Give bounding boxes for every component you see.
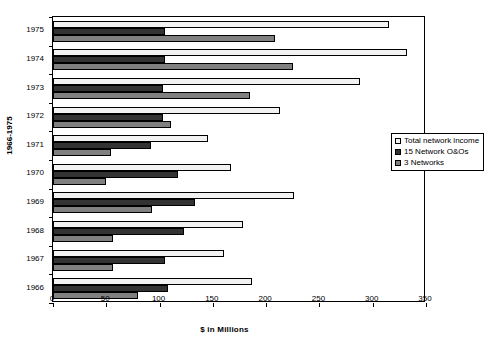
legend-label: 15 Network O&Os bbox=[404, 148, 468, 156]
legend-label: Total network income bbox=[404, 137, 479, 145]
bar-1972-3 bbox=[53, 121, 171, 128]
x-axis-label-150: 150 bbox=[192, 294, 232, 303]
bar-1966-2 bbox=[53, 285, 168, 292]
legend-swatch-icon bbox=[395, 138, 401, 144]
x-tick-mark-50 bbox=[106, 303, 107, 307]
y-tick-mark bbox=[49, 46, 53, 47]
y-tick-mark bbox=[49, 160, 53, 161]
y-axis-label-1974: 1974 bbox=[0, 55, 44, 63]
legend-item-3-networks: 3 Networks bbox=[395, 159, 479, 167]
y-tick-mark bbox=[49, 189, 53, 190]
y-tick-mark bbox=[49, 103, 53, 104]
y-axis-label-1966: 1966 bbox=[0, 284, 44, 292]
bar-1969-1 bbox=[53, 192, 294, 199]
bar-1974-3 bbox=[53, 63, 293, 70]
bar-1968-3 bbox=[53, 235, 113, 242]
legend: Total network income 15 Network O&Os 3 N… bbox=[391, 133, 484, 171]
bar-1971-2 bbox=[53, 142, 151, 149]
plot-area: Total network income 15 Network O&Os 3 N… bbox=[52, 16, 425, 302]
y-axis-label-1969: 1969 bbox=[0, 198, 44, 206]
bar-1971-1 bbox=[53, 135, 208, 142]
bar-1966-1 bbox=[53, 278, 252, 285]
bar-1968-1 bbox=[53, 221, 243, 228]
legend-label: 3 Networks bbox=[404, 159, 444, 167]
x-tick-mark-300 bbox=[373, 303, 374, 307]
bar-1967-3 bbox=[53, 264, 113, 271]
x-axis-label-300: 300 bbox=[352, 294, 392, 303]
x-tick-mark-150 bbox=[213, 303, 214, 307]
bar-1975-2 bbox=[53, 28, 165, 35]
legend-swatch-icon bbox=[395, 160, 401, 166]
x-axis-label-250: 250 bbox=[298, 294, 338, 303]
y-axis-label-1972: 1972 bbox=[0, 112, 44, 120]
y-axis-label-1970: 1970 bbox=[0, 169, 44, 177]
bar-1970-3 bbox=[53, 178, 106, 185]
y-tick-mark bbox=[49, 131, 53, 132]
y-axis-tick-labels: 1975197419731972197119701969196819671966 bbox=[0, 16, 48, 302]
x-axis-label-200: 200 bbox=[245, 294, 285, 303]
bar-1968-2 bbox=[53, 228, 184, 235]
x-tick-mark-200 bbox=[266, 303, 267, 307]
y-axis-label-1971: 1971 bbox=[0, 141, 44, 149]
y-tick-mark bbox=[49, 274, 53, 275]
bar-1972-2 bbox=[53, 114, 163, 121]
x-axis-title: $ in Millions bbox=[0, 325, 449, 334]
bar-1967-1 bbox=[53, 250, 224, 257]
bar-1969-2 bbox=[53, 199, 195, 206]
x-tick-mark-350 bbox=[426, 303, 427, 307]
legend-item-15-network-oos: 15 Network O&Os bbox=[395, 148, 479, 156]
y-tick-mark bbox=[49, 217, 53, 218]
y-axis-label-1973: 1973 bbox=[0, 84, 44, 92]
bar-1970-1 bbox=[53, 164, 231, 171]
bar-1971-3 bbox=[53, 149, 111, 156]
y-axis-label-1967: 1967 bbox=[0, 255, 44, 263]
y-tick-mark bbox=[49, 17, 53, 18]
bar-1975-3 bbox=[53, 35, 275, 42]
x-axis-label-0: 0 bbox=[32, 294, 72, 303]
legend-swatch-icon bbox=[395, 149, 401, 155]
bar-1967-2 bbox=[53, 257, 165, 264]
bar-1973-3 bbox=[53, 92, 250, 99]
bar-1969-3 bbox=[53, 206, 152, 213]
x-tick-mark-250 bbox=[319, 303, 320, 307]
x-axis-label-350: 350 bbox=[405, 294, 445, 303]
bar-1975-1 bbox=[53, 21, 389, 28]
bar-1973-2 bbox=[53, 85, 163, 92]
x-tick-mark-100 bbox=[160, 303, 161, 307]
x-axis-label-100: 100 bbox=[139, 294, 179, 303]
bar-1974-1 bbox=[53, 49, 407, 56]
x-axis-label-50: 50 bbox=[85, 294, 125, 303]
y-axis-label-1975: 1975 bbox=[0, 26, 44, 34]
y-tick-mark bbox=[49, 246, 53, 247]
bar-1973-1 bbox=[53, 78, 360, 85]
legend-item-total-network-income: Total network income bbox=[395, 137, 479, 145]
x-tick-mark-0 bbox=[53, 303, 54, 307]
y-tick-mark bbox=[49, 74, 53, 75]
y-axis-label-1968: 1968 bbox=[0, 227, 44, 235]
bar-1970-2 bbox=[53, 171, 178, 178]
bar-1974-2 bbox=[53, 56, 165, 63]
bar-1972-1 bbox=[53, 107, 280, 114]
